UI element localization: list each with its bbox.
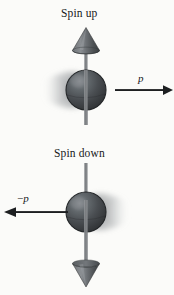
momentum-symbol-negative: p — [23, 192, 29, 204]
cone-arrowhead-up-icon — [73, 28, 100, 54]
spin-down-caption: Spin down — [54, 148, 105, 160]
momentum-arrow-right-icon — [115, 85, 173, 95]
momentum-arrow-left-icon — [4, 207, 68, 217]
spin-axis-up-front — [84, 70, 87, 125]
spin-momentum-figure: Spin up Spin down p −p — [0, 0, 174, 295]
momentum-label-negative: −p — [17, 193, 29, 204]
spin-up-caption: Spin up — [61, 8, 98, 20]
momentum-label-positive: p — [138, 73, 144, 84]
cone-arrowhead-down-icon — [73, 260, 100, 287]
spin-down-panel — [4, 163, 130, 287]
momentum-symbol-positive: p — [138, 72, 144, 84]
spin-up-panel — [42, 28, 173, 126]
spin-axis-down-front — [84, 200, 87, 266]
